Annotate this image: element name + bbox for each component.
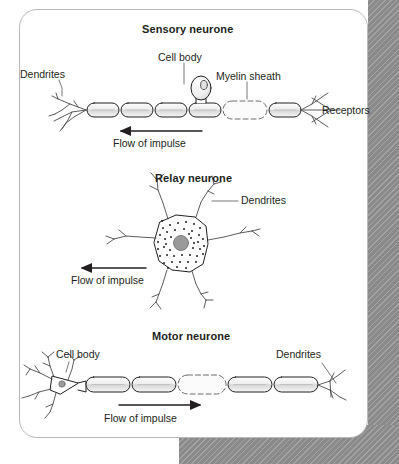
decorative-hatch-right <box>368 0 399 464</box>
sensory-label-cell-body: Cell body <box>158 51 202 63</box>
motor-label-dendrites: Dendrites <box>276 348 321 360</box>
relay-label-flow: Flow of impulse <box>71 274 144 286</box>
sensory-label-dendrites: Dendrites <box>20 68 65 80</box>
motor-label-flow: Flow of impulse <box>104 412 177 424</box>
motor-panel-title: Motor neurone <box>152 330 230 342</box>
sensory-label-receptors: Receptors <box>322 104 370 116</box>
motor-label-cell-body: Cell body <box>56 348 100 360</box>
sensory-label-flow: Flow of impulse <box>113 137 186 149</box>
relay-label-dendrites: Dendrites <box>241 194 286 206</box>
figure-canvas: Sensory neurone Dendrites Cell body Myel… <box>0 0 399 464</box>
sensory-panel-title: Sensory neurone <box>142 23 233 35</box>
relay-panel-title: Relay neurone <box>155 172 232 184</box>
diagram-card <box>19 9 368 438</box>
sensory-label-myelin-sheath: Myelin sheath <box>216 70 281 82</box>
